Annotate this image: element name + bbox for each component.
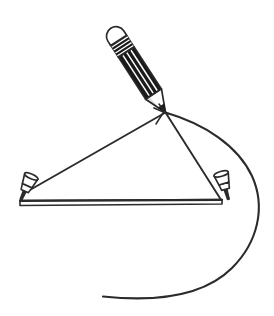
figure-canvas: Ellipse drawn with a pencil and two thum… xyxy=(0,0,274,316)
baseline-strip xyxy=(20,200,222,206)
background-rect xyxy=(0,0,274,316)
ellipse-construction-illustration xyxy=(0,0,274,316)
baseline-strip-top-edge xyxy=(20,200,222,201)
